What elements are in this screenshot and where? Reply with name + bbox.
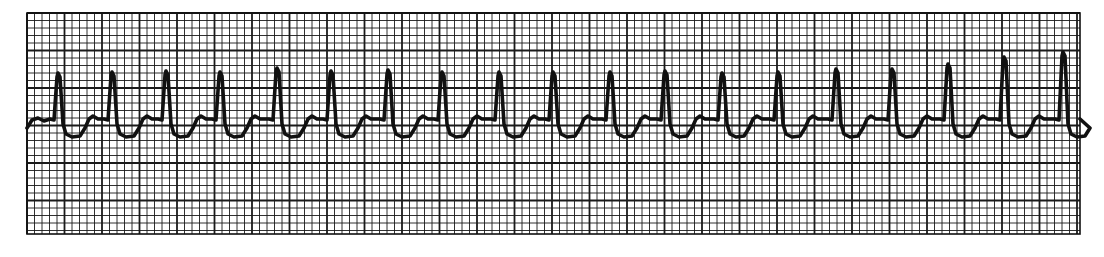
ecg-trace bbox=[27, 52, 1090, 137]
ecg-strip bbox=[0, 0, 1104, 257]
